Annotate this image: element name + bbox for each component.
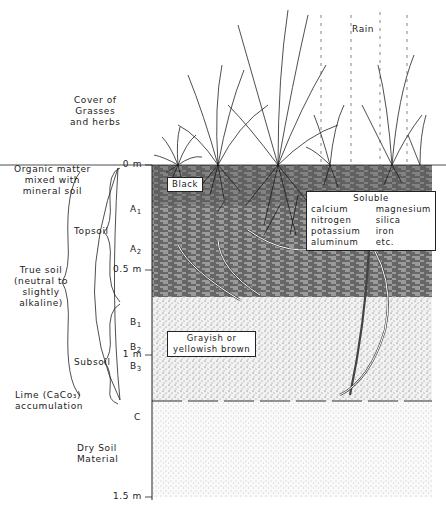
soil-profile-drawing (0, 0, 446, 512)
horizon-c: C (134, 412, 141, 423)
lime-label: Lime (CaCo₃) accumulation (15, 390, 83, 412)
true-soil-label: True soil (neutral to slightly alkaline) (14, 265, 68, 309)
horizon-b3: B3 (130, 361, 142, 375)
soluble-item: potassium (311, 226, 366, 237)
dry-soil-label: Dry Soil Material (77, 443, 118, 465)
horizon-b1: B1 (130, 317, 142, 331)
horizon-a1: A1 (130, 204, 142, 218)
horizon-a2: A2 (130, 244, 142, 258)
subsoil-label: Subsoil (74, 357, 111, 368)
soluble-title: Soluble (307, 192, 435, 204)
horizon-brackets (62, 168, 120, 404)
c-horizon-layer (152, 401, 432, 497)
cover-label: Cover of Grasses and herbs (70, 95, 121, 128)
soluble-item: silica (376, 215, 431, 226)
horizon-b2: B2 (130, 342, 142, 356)
depth-1.5m: 1.5 m (110, 491, 142, 502)
soluble-item: aluminum (311, 237, 366, 248)
topsoil-label: Topsoil (74, 226, 109, 237)
rain-label: Rain (352, 24, 374, 35)
soluble-item: calcium (311, 204, 366, 215)
black-box: Black (167, 177, 203, 192)
depth-0m: 0 m (110, 159, 142, 170)
depth-0.5m: 0.5 m (110, 264, 142, 275)
soluble-item: etc. (376, 237, 431, 248)
soluble-box: Soluble calcium magnesium nitrogen silic… (306, 191, 436, 251)
organic-matter-label: Organic matter mixed with mineral soil (14, 164, 91, 197)
depth-ticks (145, 165, 152, 497)
grayish-box: Grayish or yellowish brown (167, 331, 256, 357)
soluble-item: iron (376, 226, 431, 237)
grasses (154, 10, 426, 165)
soluble-item: nitrogen (311, 215, 366, 226)
soluble-item: magnesium (376, 204, 431, 215)
